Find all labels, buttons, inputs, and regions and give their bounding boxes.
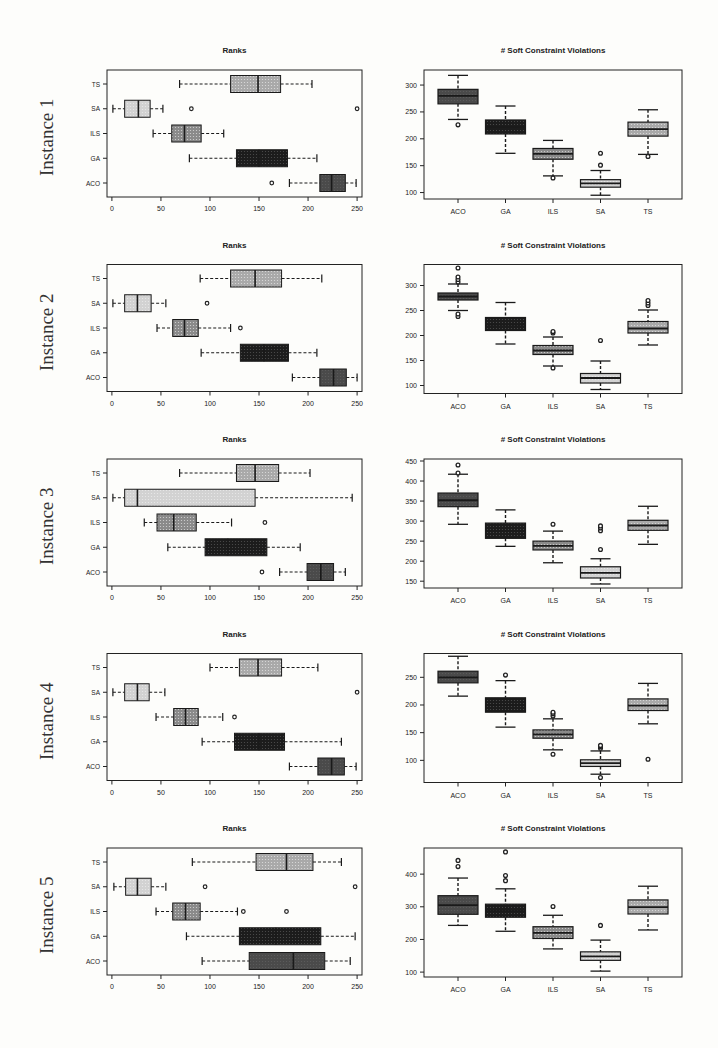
x-tick-label: TS [644, 597, 653, 604]
box-ts [239, 659, 281, 676]
x-tick-label: ACO [450, 792, 466, 799]
x-tick-label: 0 [110, 983, 114, 990]
x-tick-label: 200 [302, 789, 314, 796]
violations-plot-instance-5 [420, 848, 682, 981]
y-tick-label: 300 [405, 903, 417, 910]
box-ils [173, 903, 200, 920]
x-tick-label: 100 [204, 205, 216, 212]
x-tick-label: SA [596, 792, 606, 799]
x-tick-label: 200 [302, 594, 314, 601]
y-tick-label: SA [91, 105, 100, 112]
y-tick-label: 200 [405, 558, 417, 565]
y-tick-label: SA [91, 300, 100, 307]
x-tick-label: SA [596, 986, 606, 993]
y-tick-label: 200 [405, 332, 417, 339]
box-ts [256, 854, 313, 871]
y-tick-label: GA [91, 933, 101, 940]
y-tick-label: 400 [405, 871, 417, 878]
y-tick-label: 450 [405, 458, 417, 465]
x-tick-label: 50 [157, 205, 165, 212]
x-tick-label: TS [644, 792, 653, 799]
x-tick-label: 50 [157, 594, 165, 601]
y-tick-label: ILS [90, 519, 100, 526]
violations-title: # Soft Constraint Violations [501, 824, 606, 833]
x-tick-label: 0 [110, 594, 114, 601]
box-ts [231, 76, 281, 93]
y-tick-label: 150 [405, 729, 417, 736]
x-tick-label: 100 [204, 789, 216, 796]
y-tick-label: ACO [86, 180, 100, 187]
ranks-title: Ranks [222, 824, 247, 833]
box-ga [205, 539, 267, 556]
x-tick-label: 100 [204, 983, 216, 990]
y-tick-label: TS [92, 81, 101, 88]
ranks-plot-instance-1 [103, 70, 362, 201]
y-tick-label: GA [91, 349, 101, 356]
y-tick-label: 150 [405, 162, 417, 169]
y-tick-label: GA [91, 155, 101, 162]
x-tick-label: 200 [302, 205, 314, 212]
x-tick-label: 250 [351, 400, 363, 407]
violations-plot-instance-4 [420, 654, 682, 787]
x-tick-label: 50 [157, 983, 165, 990]
box-sa [125, 100, 150, 117]
x-tick-label: 0 [110, 400, 114, 407]
box-ga [236, 150, 287, 167]
x-tick-label: 200 [302, 983, 314, 990]
x-tick-label: 50 [157, 789, 165, 796]
y-tick-label: SA [91, 883, 100, 890]
y-tick-label: ILS [90, 130, 100, 137]
x-tick-label: 250 [351, 205, 363, 212]
row-label-instance-2: Instance 2 [36, 293, 58, 371]
box-ils [172, 125, 201, 142]
y-tick-label: TS [92, 859, 101, 866]
x-tick-label: ILS [548, 403, 559, 410]
y-tick-label: TS [92, 275, 101, 282]
x-tick-label: 150 [253, 983, 265, 990]
y-tick-label: ACO [86, 958, 100, 965]
violations-plot-instance-1 [420, 70, 682, 203]
x-tick-label: ACO [450, 597, 466, 604]
y-tick-label: ILS [90, 325, 100, 332]
ranks-title: Ranks [222, 46, 247, 55]
x-tick-label: 0 [110, 789, 114, 796]
y-tick-label: 400 [405, 478, 417, 485]
y-tick-label: ACO [86, 569, 100, 576]
x-tick-label: GA [500, 792, 510, 799]
ranks-plot-instance-4 [103, 654, 362, 785]
y-tick-label: 250 [405, 538, 417, 545]
y-tick-label: ILS [90, 908, 100, 915]
x-tick-label: 150 [253, 594, 265, 601]
x-tick-label: GA [500, 403, 510, 410]
violations-title: # Soft Constraint Violations [501, 46, 606, 55]
box-ga [239, 928, 320, 945]
violations-title: # Soft Constraint Violations [501, 241, 606, 250]
y-tick-label: 200 [405, 135, 417, 142]
x-tick-label: 50 [157, 400, 165, 407]
box-sa [126, 878, 152, 895]
x-tick-label: 150 [253, 205, 265, 212]
box-ils [157, 514, 196, 531]
violations-title: # Soft Constraint Violations [501, 435, 606, 444]
y-tick-label: GA [91, 544, 101, 551]
x-tick-label: GA [500, 986, 510, 993]
x-tick-label: 0 [110, 205, 114, 212]
x-tick-label: 200 [302, 400, 314, 407]
x-tick-label: ILS [548, 792, 559, 799]
box-ts [236, 465, 278, 482]
x-tick-label: TS [644, 986, 653, 993]
x-tick-label: ACO [450, 986, 466, 993]
row-label-instance-5: Instance 5 [36, 876, 58, 954]
x-tick-label: 250 [351, 789, 363, 796]
x-tick-label: 250 [351, 983, 363, 990]
ranks-title: Ranks [222, 435, 247, 444]
y-tick-label: GA [91, 738, 101, 745]
x-tick-label: ACO [450, 208, 466, 215]
violations-plot-instance-3 [420, 459, 682, 592]
violations-plot-instance-2 [420, 265, 682, 398]
y-tick-label: TS [92, 470, 101, 477]
boxplot-grid: Ranks050100150200250ACOGAILSSATS# Soft C… [0, 0, 718, 1048]
x-tick-label: GA [500, 208, 510, 215]
x-tick-label: 250 [351, 594, 363, 601]
x-tick-label: ILS [548, 986, 559, 993]
